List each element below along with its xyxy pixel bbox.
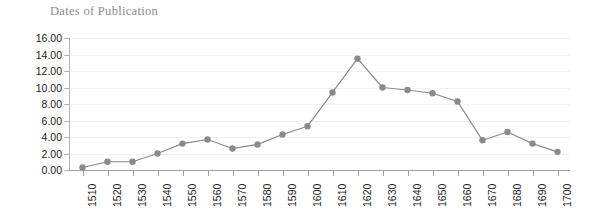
- y-axis-tick-mark: [64, 55, 69, 56]
- x-axis-tick-mark: [183, 171, 184, 176]
- gridline: [70, 154, 570, 155]
- y-axis-tick-label: 16.00: [2, 33, 62, 44]
- y-axis-tick-mark: [64, 121, 69, 122]
- x-axis-tick-label: 1560: [212, 184, 223, 207]
- x-axis-tick-mark: [283, 171, 284, 176]
- x-axis-tick-mark: [433, 171, 434, 176]
- x-axis-tick-mark: [558, 171, 559, 176]
- chart-container: Dates of Publication 16.0014.0012.0010.0…: [0, 0, 599, 211]
- gridline: [70, 121, 570, 122]
- x-axis-tick-label: 1540: [162, 184, 173, 207]
- x-axis-tick-mark: [108, 171, 109, 176]
- gridline: [70, 88, 570, 89]
- x-axis-tick-label: 1640: [412, 184, 423, 207]
- plot-area: [70, 38, 570, 170]
- x-axis-tick-label: 1510: [87, 184, 98, 207]
- x-axis-tick-mark: [233, 171, 234, 176]
- y-axis-tick-mark: [64, 104, 69, 105]
- y-axis-tick-label: 10.00: [2, 83, 62, 94]
- x-axis-line: [69, 170, 570, 171]
- x-axis-tick-mark: [358, 171, 359, 176]
- y-axis-tick-label: 12.00: [2, 66, 62, 77]
- x-axis-tick-label: 1520: [112, 184, 123, 207]
- gridline: [70, 104, 570, 105]
- x-axis-tick-label: 1550: [187, 184, 198, 207]
- y-axis-tick-label: 6.00: [2, 116, 62, 127]
- x-axis-tick-mark: [533, 171, 534, 176]
- x-axis-tick-mark: [83, 171, 84, 176]
- y-axis-tick-label: 0.00: [2, 165, 62, 176]
- x-axis-tick-label: 1660: [462, 184, 473, 207]
- x-axis-tick-mark: [308, 171, 309, 176]
- y-axis-tick-mark: [64, 170, 69, 171]
- y-axis-tick-mark: [64, 71, 69, 72]
- y-axis-tick-mark: [64, 137, 69, 138]
- x-axis-tick-mark: [508, 171, 509, 176]
- x-axis-tick-label: 1650: [437, 184, 448, 207]
- x-axis-tick-label: 1630: [387, 184, 398, 207]
- x-axis-tick-label: 1530: [137, 184, 148, 207]
- y-axis-tick-label: 2.00: [2, 149, 62, 160]
- x-axis-tick-label: 1600: [312, 184, 323, 207]
- gridline: [70, 38, 570, 39]
- gridline: [70, 71, 570, 72]
- x-axis-tick-mark: [383, 171, 384, 176]
- x-axis-tick-mark: [208, 171, 209, 176]
- x-axis-tick-label: 1590: [287, 184, 298, 207]
- y-axis-tick-mark: [64, 154, 69, 155]
- x-axis-tick-mark: [333, 171, 334, 176]
- x-axis-tick-mark: [158, 171, 159, 176]
- x-axis-tick-mark: [258, 171, 259, 176]
- y-axis-tick-label: 8.00: [2, 99, 62, 110]
- gridline: [70, 55, 570, 56]
- x-axis-tick-label: 1620: [362, 184, 373, 207]
- y-axis-line: [69, 38, 70, 171]
- chart-title: Dates of Publication: [50, 4, 158, 19]
- gridline: [70, 137, 570, 138]
- x-axis-tick-label: 1680: [512, 184, 523, 207]
- x-axis-tick-label: 1580: [262, 184, 273, 207]
- x-axis-tick-label: 1570: [237, 184, 248, 207]
- x-axis-tick-label: 1670: [487, 184, 498, 207]
- x-axis-tick-mark: [133, 171, 134, 176]
- x-axis-tick-mark: [483, 171, 484, 176]
- x-axis-tick-label: 1610: [337, 184, 348, 207]
- y-axis-tick-mark: [64, 88, 69, 89]
- x-axis-tick-mark: [408, 171, 409, 176]
- y-axis-tick-label: 14.00: [2, 50, 62, 61]
- y-axis-tick-labels: 16.0014.0012.0010.008.006.004.002.000.00: [0, 0, 62, 211]
- y-axis-tick-label: 4.00: [2, 132, 62, 143]
- x-axis-tick-label: 1690: [537, 184, 548, 207]
- x-axis-tick-label: 1700: [562, 184, 573, 207]
- x-axis-tick-mark: [458, 171, 459, 176]
- y-axis-tick-mark: [64, 38, 69, 39]
